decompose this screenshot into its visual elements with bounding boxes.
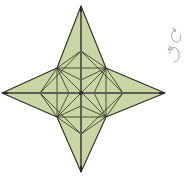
turn-over-icon [168,28,181,62]
star-outline [2,6,165,172]
star-shape [2,6,165,172]
origami-star-diagram [0,0,187,177]
